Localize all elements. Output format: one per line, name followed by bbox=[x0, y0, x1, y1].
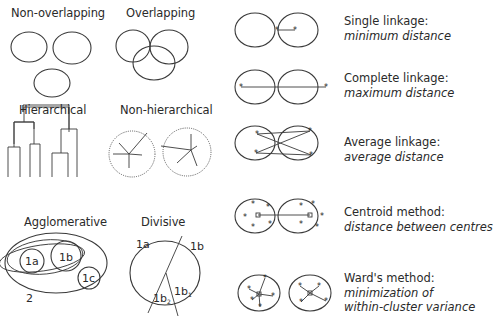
complete-linkage-diagram: * * bbox=[235, 70, 328, 104]
agglomerative-label-1a: 1a bbox=[25, 255, 39, 268]
svg-text:*: * bbox=[247, 285, 251, 294]
method-name: Ward's method: bbox=[344, 271, 475, 286]
svg-text:*: * bbox=[243, 213, 247, 222]
method-description: minimum distance bbox=[344, 29, 451, 44]
point-marker-icon: * bbox=[254, 149, 258, 158]
svg-text:*: * bbox=[251, 223, 255, 232]
method-description: average distance bbox=[344, 150, 443, 165]
svg-text:*: * bbox=[263, 274, 267, 283]
non-overlapping-clusters bbox=[11, 32, 91, 97]
svg-text:*: * bbox=[299, 220, 303, 229]
average-linkage-diagram: * * * * bbox=[235, 126, 318, 160]
svg-text:*: * bbox=[266, 203, 270, 212]
divisive-label-1a: 1a bbox=[136, 238, 150, 251]
divisive-label-1b1: 1b1 bbox=[174, 285, 192, 298]
divisive-cluster: 1a 1b 1b1 1b2 bbox=[130, 236, 204, 316]
method-description-line-1: minimization of bbox=[344, 286, 475, 301]
centroid-method-diagram: * * * * * * * * * * bbox=[235, 199, 324, 233]
svg-text:*: * bbox=[251, 200, 255, 209]
agglomerative-clusters: 1a 1b 1c 2 bbox=[0, 233, 107, 305]
method-description: maximum distance bbox=[344, 86, 454, 101]
single-linkage-diagram: * * bbox=[235, 13, 318, 47]
overlapping-clusters bbox=[116, 30, 188, 80]
point-marker-icon: * bbox=[239, 83, 243, 92]
method-single-linkage: Single linkage: minimum distance bbox=[344, 14, 451, 43]
svg-text:*: * bbox=[324, 297, 328, 306]
agglomerative-label-1b: 1b bbox=[59, 251, 73, 264]
method-average-linkage: Average linkage: average distance bbox=[344, 135, 443, 164]
title-agglomerative: Agglomerative bbox=[24, 215, 107, 229]
method-name: Centroid method: bbox=[344, 205, 493, 220]
method-wards: Ward's method: minimization of within-cl… bbox=[344, 271, 475, 315]
title-hierarchical: Hierarchical bbox=[19, 103, 86, 117]
point-marker-icon: * bbox=[255, 130, 259, 139]
point-marker-icon: * bbox=[293, 26, 297, 35]
svg-text:*: * bbox=[299, 298, 303, 307]
dendrogram-lines bbox=[8, 107, 77, 177]
svg-text:*: * bbox=[299, 202, 303, 211]
agglomerative-label-2: 2 bbox=[26, 292, 33, 305]
svg-text:*: * bbox=[311, 200, 315, 209]
svg-text:*: * bbox=[317, 282, 321, 291]
svg-text:*: * bbox=[258, 303, 262, 312]
non-hierarchical-clusters bbox=[109, 128, 211, 177]
point-marker-icon: * bbox=[309, 151, 313, 160]
method-name: Single linkage: bbox=[344, 14, 451, 29]
svg-text:*: * bbox=[298, 282, 302, 291]
divisive-label-1b2: 1b2 bbox=[153, 292, 171, 305]
wards-method-diagram: * * * * * * * * * bbox=[238, 274, 331, 312]
point-marker-icon: * bbox=[324, 83, 328, 92]
svg-text:*: * bbox=[250, 296, 254, 305]
point-marker-icon: * bbox=[308, 127, 312, 136]
method-name: Complete linkage: bbox=[344, 71, 454, 86]
title-overlapping: Overlapping bbox=[126, 6, 195, 20]
method-description: distance between centres bbox=[344, 220, 493, 235]
title-non-hierarchical: Non-hierarchical bbox=[120, 103, 213, 117]
svg-text:*: * bbox=[268, 220, 272, 229]
divisive-label-1b: 1b bbox=[190, 240, 204, 253]
agglomerative-label-1c: 1c bbox=[82, 272, 95, 285]
method-centroid: Centroid method: distance between centre… bbox=[344, 205, 493, 234]
svg-text:*: * bbox=[271, 292, 275, 301]
svg-text:*: * bbox=[320, 212, 324, 221]
method-name: Average linkage: bbox=[344, 135, 443, 150]
point-marker-icon: * bbox=[275, 26, 279, 35]
method-description-line-2: within-cluster variance bbox=[344, 300, 475, 315]
svg-text:*: * bbox=[315, 223, 319, 232]
title-non-overlapping: Non-overlapping bbox=[11, 6, 105, 20]
title-divisive: Divisive bbox=[141, 215, 185, 229]
method-complete-linkage: Complete linkage: maximum distance bbox=[344, 71, 454, 100]
